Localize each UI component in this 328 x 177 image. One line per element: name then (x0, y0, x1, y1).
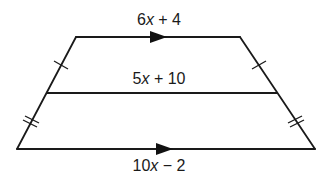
bottom-parallel-arrow-icon (156, 143, 173, 155)
trapezoid-edges (17, 37, 315, 149)
trapezoid-diagram: 6x + 4 5x + 10 10x − 2 (0, 0, 328, 177)
top-base-label: 6x + 4 (137, 11, 181, 28)
right-single-tick-icon (252, 61, 266, 69)
top-parallel-arrow-icon (150, 31, 167, 43)
bottom-base-label: 10x − 2 (133, 157, 186, 174)
left-single-tick-icon (54, 61, 68, 69)
midsegment-label: 5x + 10 (133, 70, 186, 87)
